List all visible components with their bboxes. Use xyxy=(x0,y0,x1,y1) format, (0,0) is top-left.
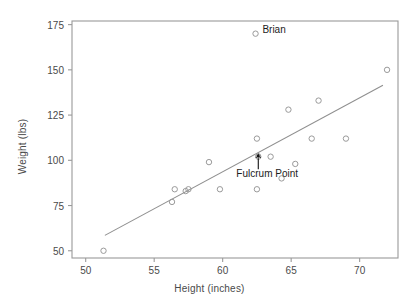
data-point xyxy=(293,161,298,166)
x-tick-label: 70 xyxy=(354,265,365,276)
data-point xyxy=(343,136,348,141)
plot-canvas xyxy=(0,0,419,304)
data-point xyxy=(268,154,273,159)
data-point xyxy=(172,187,177,192)
y-tick-label: 125 xyxy=(36,110,64,121)
y-tick-label: 75 xyxy=(36,200,64,211)
x-axis-title: Height (inches) xyxy=(0,283,419,294)
x-tick-label: 50 xyxy=(80,265,91,276)
data-point xyxy=(101,248,106,253)
plot-frame xyxy=(72,21,398,258)
data-point xyxy=(384,67,389,72)
y-axis-title: Weight (lbs) xyxy=(17,87,28,207)
y-tick-label: 50 xyxy=(36,245,64,256)
data-point xyxy=(217,187,222,192)
data-point xyxy=(309,136,314,141)
data-point xyxy=(286,107,291,112)
y-tick-label: 150 xyxy=(36,64,64,75)
x-tick-label: 55 xyxy=(149,265,160,276)
data-point xyxy=(254,136,259,141)
y-tick-label: 175 xyxy=(36,19,64,30)
data-points xyxy=(101,31,390,253)
data-point xyxy=(253,31,258,36)
data-point xyxy=(316,98,321,103)
axis-ticks xyxy=(68,25,360,262)
fulcrum-label: Fulcrum Point xyxy=(236,168,298,179)
x-tick-label: 60 xyxy=(217,265,228,276)
regression-line xyxy=(105,85,383,235)
data-point xyxy=(254,187,259,192)
x-tick-label: 65 xyxy=(286,265,297,276)
data-point xyxy=(206,159,211,164)
scatter-chart: 50556065705075100125150175 BrianFulcrum … xyxy=(0,0,419,304)
y-tick-label: 100 xyxy=(36,155,64,166)
data-point xyxy=(169,199,174,204)
brian-label: Brian xyxy=(262,24,285,35)
